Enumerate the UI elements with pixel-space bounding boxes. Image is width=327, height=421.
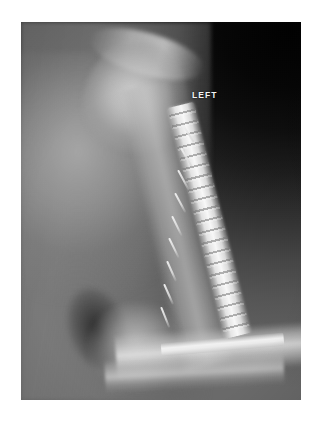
side-marker-left: LEFT bbox=[192, 90, 218, 100]
marker-layer bbox=[21, 22, 301, 400]
page-header bbox=[0, 0, 327, 14]
radiograph-image bbox=[21, 22, 301, 400]
